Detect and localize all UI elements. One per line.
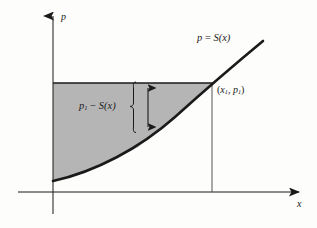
point-coordinate-label: (x1, p1) (217, 85, 244, 96)
price-axis-label: p (61, 12, 66, 22)
diff-sx: S(x) (99, 100, 116, 111)
curve-label-equals: = (205, 32, 211, 43)
quantity-axis-label: x (297, 199, 301, 209)
diff-minus-sign: − (90, 100, 96, 111)
point-close-paren: ) (241, 84, 244, 95)
diff-p-subscript: 1 (84, 104, 87, 111)
curve-label-sx: S(x) (213, 32, 230, 43)
producer-surplus-region (53, 83, 212, 181)
supply-curve-figure: p x p = S(x) (x1, p1) p1 − S(x) (0, 0, 317, 228)
figure-canvas (0, 0, 317, 228)
curve-label-p: p (197, 32, 202, 43)
supply-curve-label: p = S(x) (197, 33, 230, 44)
difference-label: p1 − S(x) (79, 101, 116, 112)
